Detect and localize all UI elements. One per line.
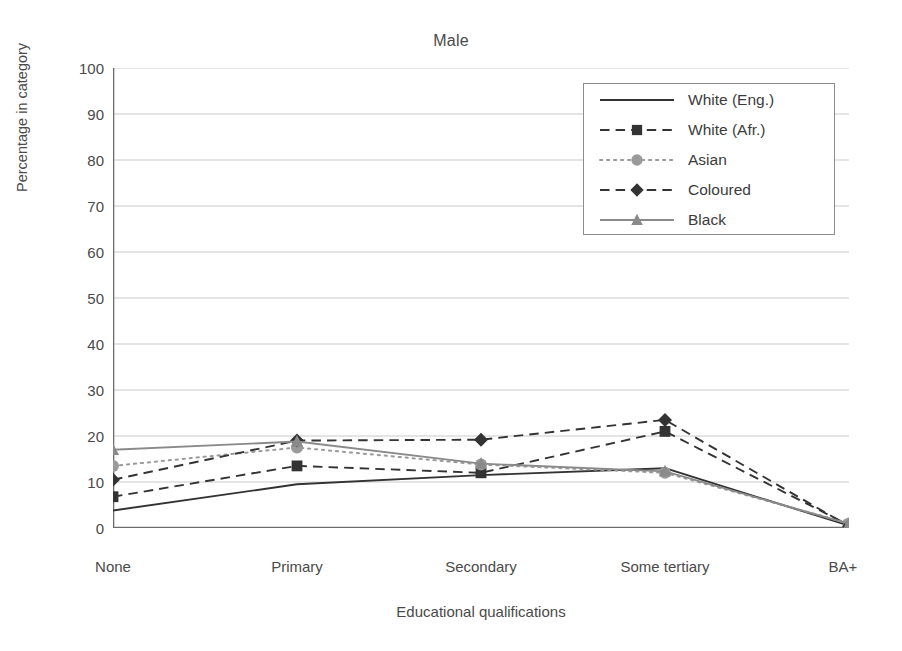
legend-swatch — [598, 177, 676, 203]
x-tick-label-ba: BA+ — [829, 558, 858, 575]
legend-marker — [632, 125, 642, 135]
legend-item-white-afr[interactable]: White (Afr.) — [584, 115, 836, 145]
legend-item-asian[interactable]: Asian — [584, 145, 836, 175]
legend-swatch — [598, 147, 676, 173]
legend-swatch — [598, 117, 676, 143]
y-tick-label: 80 — [60, 152, 104, 169]
data-point-marker — [292, 461, 303, 472]
series-black — [113, 435, 849, 528]
legend-marker — [631, 154, 642, 165]
legend-label: Black — [688, 211, 726, 229]
series-asian — [113, 442, 849, 529]
data-point-marker — [660, 426, 671, 437]
x-tick-label-primary: Primary — [271, 558, 323, 575]
y-tick-label: 70 — [60, 198, 104, 215]
legend-label: Asian — [688, 151, 727, 169]
y-axis-tick-labels: 0102030405060708090100 — [56, 68, 104, 528]
y-tick-label: 10 — [60, 474, 104, 491]
x-axis-tick-labels: NonePrimarySecondarySome tertiaryBA+ — [0, 558, 902, 582]
chart-legend: White (Eng.)White (Afr.)AsianColouredBla… — [583, 83, 835, 235]
chart-figure: Male Percentage in category 010203040506… — [0, 0, 902, 651]
legend-swatch — [598, 87, 676, 113]
legend-marker — [630, 183, 643, 196]
legend-label: Coloured — [688, 181, 751, 199]
legend-swatch — [598, 207, 676, 233]
data-point-marker — [658, 413, 672, 427]
y-tick-label: 30 — [60, 382, 104, 399]
data-point-marker — [113, 460, 119, 472]
data-point-marker — [474, 433, 488, 447]
data-point-marker — [113, 491, 118, 502]
legend-item-white-eng[interactable]: White (Eng.) — [584, 85, 836, 115]
series-line — [113, 442, 849, 524]
y-tick-label: 40 — [60, 336, 104, 353]
legend-item-coloured[interactable]: Coloured — [584, 175, 836, 205]
y-axis-title: Percentage in category — [14, 0, 30, 192]
x-tick-label-secondary: Secondary — [445, 558, 517, 575]
legend-label: White (Afr.) — [688, 121, 766, 139]
y-tick-label: 100 — [60, 60, 104, 77]
data-point-marker — [113, 473, 120, 487]
x-tick-label-some-tertiary: Some tertiary — [620, 558, 709, 575]
legend-item-black[interactable]: Black — [584, 205, 836, 235]
chart-title: Male — [0, 32, 902, 50]
x-axis-title: Educational qualifications — [113, 603, 849, 620]
legend-label: White (Eng.) — [688, 91, 774, 109]
y-tick-label: 20 — [60, 428, 104, 445]
y-tick-label: 60 — [60, 244, 104, 261]
y-tick-label: 50 — [60, 290, 104, 307]
y-tick-label: 0 — [60, 520, 104, 537]
x-tick-label-none: None — [95, 558, 131, 575]
y-tick-label: 90 — [60, 106, 104, 123]
